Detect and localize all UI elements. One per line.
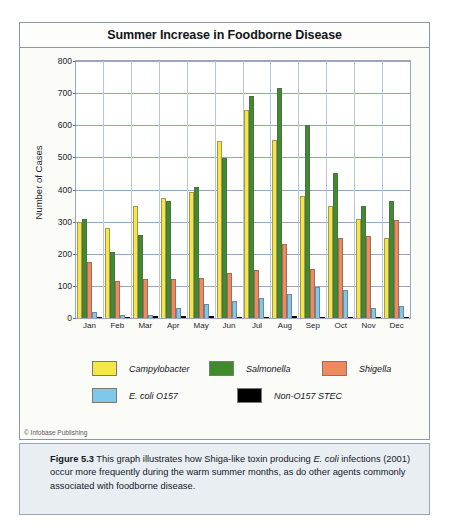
bars-layer: JanFebMarAprMayJunJulAugSepOctNovDec (76, 61, 410, 318)
x-tick-label-mar: Mar (132, 321, 159, 330)
x-tick-label-sep: Sep (299, 321, 326, 330)
month-group: Feb (104, 61, 132, 318)
figure-frame: Summer Increase in Foodborne Disease Num… (19, 22, 430, 440)
bar-shigella-nov (366, 236, 371, 318)
month-group: Jan (76, 61, 104, 318)
month-group: Apr (160, 61, 188, 318)
chart-title-band: Summer Increase in Foodborne Disease (20, 23, 429, 48)
x-tick-label-apr: Apr (160, 321, 187, 330)
bar-e-coli-o157-jun (232, 301, 237, 318)
y-tick-label: 400 (58, 185, 72, 195)
month-group: Jul (244, 61, 272, 318)
month-group: Mar (132, 61, 160, 318)
bar-non-o157-stec-nov (376, 317, 381, 318)
month-group: Dec (383, 61, 410, 318)
month-group: Jun (216, 61, 244, 318)
month-group: Oct (327, 61, 355, 318)
bar-non-o157-stec-jul (264, 317, 269, 318)
bar-shigella-feb (115, 281, 120, 318)
caption-part-1: This graph illustrates how Shiga-like to… (94, 454, 313, 464)
y-tick-mark (73, 318, 76, 319)
bar-non-o157-stec-aug (292, 316, 297, 318)
legend-label: Shigella (359, 364, 391, 374)
y-tick-label: 100 (58, 281, 72, 291)
x-tick-label-jan: Jan (76, 321, 103, 330)
legend-swatch-shigella (322, 361, 347, 376)
chart-title: Summer Increase in Foodborne Disease (107, 28, 342, 42)
x-tick-label-oct: Oct (327, 321, 354, 330)
bar-e-coli-o157-sep (315, 287, 320, 318)
bar-non-o157-stec-jan (97, 317, 102, 318)
x-tick-label-aug: Aug (271, 321, 298, 330)
x-tick-label-feb: Feb (104, 321, 131, 330)
y-axis-title: Number of Cases (33, 123, 44, 243)
figure-page: Summer Increase in Foodborne Disease Num… (0, 0, 449, 528)
bar-non-o157-stec-sep (320, 317, 325, 318)
legend-entry-campylobacter: Campylobacter (30, 361, 209, 376)
bar-e-coli-o157-jul (259, 298, 264, 318)
bar-non-o157-stec-dec (404, 317, 409, 318)
legend-label: Campylobacter (129, 364, 190, 374)
y-tick-label: 300 (58, 217, 72, 227)
figure-caption-box: Figure 5.3 This graph illustrates how Sh… (19, 443, 430, 515)
month-group: Nov (355, 61, 383, 318)
month-group: Sep (299, 61, 327, 318)
bar-non-o157-stec-jun (237, 317, 242, 318)
legend-label: Non-O157 STEC (274, 391, 342, 401)
y-tick-label: 600 (58, 120, 72, 130)
y-tick-label: 700 (58, 88, 72, 98)
month-group: May (188, 61, 216, 318)
copyright-notice: © Infobase Publishing (24, 429, 87, 436)
x-tick-label-nov: Nov (355, 321, 382, 330)
legend-entry-shigella: Shigella (322, 361, 419, 376)
caption-figure-label: Figure 5.3 (50, 454, 94, 464)
gridline: 0 (76, 318, 410, 319)
x-tick-label-may: May (188, 321, 215, 330)
legend-label: Salmonella (246, 364, 291, 374)
bar-e-coli-o157-aug (287, 294, 292, 318)
month-group: Aug (271, 61, 299, 318)
chart-legend: CampylobacterSalmonellaShigellaE. coli O… (20, 355, 429, 409)
legend-swatch-non-o157-stec (237, 388, 262, 403)
bar-non-o157-stec-feb (125, 317, 130, 318)
caption-emphasis: E. coli (313, 454, 338, 464)
legend-label: E. coli O157 (129, 391, 178, 401)
y-tick-label: 200 (58, 249, 72, 259)
figure-caption-text: Figure 5.3 This graph illustrates how Sh… (50, 453, 411, 493)
legend-entry-non-o157-stec: Non-O157 STEC (237, 388, 377, 403)
legend-row: E. coli O157Non-O157 STEC (30, 382, 419, 409)
plot-area: Number of Cases 010020030040050060070080… (20, 49, 429, 349)
x-tick-label-jun: Jun (216, 321, 243, 330)
legend-swatch-salmonella (209, 361, 234, 376)
bar-non-o157-stec-mar (153, 316, 158, 318)
x-tick-label-dec: Dec (383, 321, 410, 330)
bar-e-coli-o157-oct (343, 290, 348, 318)
bar-shigella-jan (87, 262, 92, 318)
legend-row: CampylobacterSalmonellaShigella (30, 355, 419, 382)
bar-non-o157-stec-may (209, 316, 214, 318)
bar-non-o157-stec-oct (348, 317, 353, 318)
bar-shigella-dec (394, 220, 399, 318)
bar-shigella-mar (143, 279, 148, 318)
bar-non-o157-stec-apr (181, 316, 186, 318)
legend-entry-salmonella: Salmonella (209, 361, 322, 376)
y-tick-label: 0 (67, 313, 72, 323)
y-tick-label: 800 (58, 56, 72, 66)
x-tick-label-jul: Jul (244, 321, 271, 330)
legend-swatch-e-coli-o157 (92, 388, 117, 403)
legend-swatch-campylobacter (92, 361, 117, 376)
y-tick-label: 500 (58, 152, 72, 162)
legend-entry-e-coli-o157: E. coli O157 (30, 388, 237, 403)
plot-canvas: 0100200300400500600700800 JanFebMarAprMa… (75, 60, 411, 319)
